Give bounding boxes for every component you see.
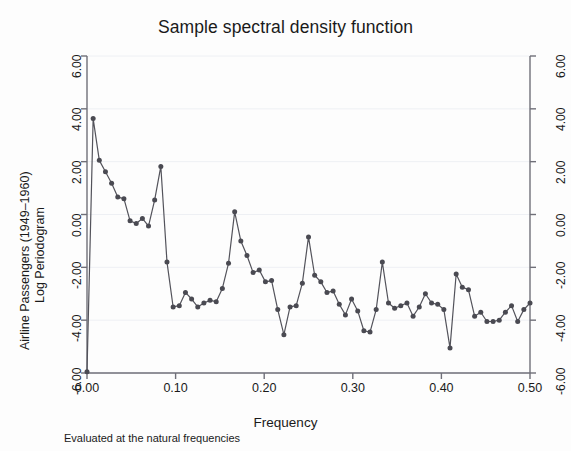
y-tick-label-left: -2.00 [70, 262, 84, 289]
data-point [257, 267, 262, 272]
y-tick-label-left: 0.00 [70, 213, 84, 236]
data-point [491, 319, 496, 324]
data-point [411, 314, 416, 319]
x-tick-label: 0.10 [151, 381, 201, 395]
data-point [121, 196, 126, 201]
data-point [398, 303, 403, 308]
y-tick-label-right: -2.00 [554, 262, 568, 289]
data-point [281, 332, 286, 337]
data-point [355, 308, 360, 313]
data-point [201, 301, 206, 306]
data-point [294, 303, 299, 308]
x-tick-label: 0.00 [62, 381, 112, 395]
data-point [97, 158, 102, 163]
data-point [503, 310, 508, 315]
data-point [263, 279, 268, 284]
data-point [386, 301, 391, 306]
data-point [497, 318, 502, 323]
y-tick-label-right: 2.00 [554, 160, 568, 183]
grid-lines [87, 56, 530, 373]
data-point [189, 297, 194, 302]
data-point [269, 278, 274, 283]
data-point [91, 116, 96, 121]
y-tick-label-right: 6.00 [554, 55, 568, 78]
data-point [251, 270, 256, 275]
data-point [331, 289, 336, 294]
data-point [183, 290, 188, 295]
data-point [275, 307, 280, 312]
chart-figure: Sample spectral density function Airline… [0, 0, 571, 451]
data-point [435, 302, 440, 307]
data-point [454, 271, 459, 276]
x-tick-label: 0.40 [416, 381, 466, 395]
y-tick-label-right: 4.00 [554, 107, 568, 130]
data-point [115, 195, 120, 200]
y-tick-label-right: 0.00 [554, 213, 568, 236]
data-point [417, 304, 422, 309]
data-point [429, 301, 434, 306]
data-point [288, 304, 293, 309]
y-tick-label-right: -4.00 [554, 315, 568, 342]
data-point [146, 224, 151, 229]
axis-ticks [81, 56, 536, 379]
data-point [158, 164, 163, 169]
data-point [85, 369, 90, 374]
data-point [238, 238, 243, 243]
data-point [460, 285, 465, 290]
data-point [312, 273, 317, 278]
x-tick-label: 0.30 [328, 381, 378, 395]
data-point [134, 221, 139, 226]
data-point [226, 261, 231, 266]
y-tick-label-left: 6.00 [70, 55, 84, 78]
x-tick-label: 0.50 [505, 381, 555, 395]
data-point [128, 218, 133, 223]
data-point [509, 303, 514, 308]
data-point [515, 319, 520, 324]
data-point [195, 304, 200, 309]
data-point [164, 260, 169, 265]
data-point [171, 304, 176, 309]
data-point [448, 345, 453, 350]
data-point [232, 209, 237, 214]
data-point [472, 314, 477, 319]
data-point [109, 181, 114, 186]
data-point [528, 301, 533, 306]
data-point [343, 312, 348, 317]
data-point [374, 307, 379, 312]
y-tick-label-left: -4.00 [70, 315, 84, 342]
data-point [484, 319, 489, 324]
data-point [423, 291, 428, 296]
data-point [368, 330, 373, 335]
data-point [300, 281, 305, 286]
data-point [318, 279, 323, 284]
data-point [103, 169, 108, 174]
data-point [306, 234, 311, 239]
data-point [441, 307, 446, 312]
data-point [177, 303, 182, 308]
data-point [349, 297, 354, 302]
data-point [521, 307, 526, 312]
data-point [208, 298, 213, 303]
data-point [220, 286, 225, 291]
y-tick-label-left: 4.00 [70, 107, 84, 130]
data-point [337, 302, 342, 307]
data-point [244, 253, 249, 258]
y-tick-label-right: -6.00 [554, 368, 568, 395]
data-point [324, 290, 329, 295]
data-point [140, 216, 145, 221]
data-point [361, 328, 366, 333]
data-point [466, 287, 471, 292]
data-point [152, 197, 157, 202]
data-point [478, 310, 483, 315]
data-point [380, 260, 385, 265]
y-tick-label-left: 2.00 [70, 160, 84, 183]
data-point [214, 299, 219, 304]
x-tick-label: 0.20 [239, 381, 289, 395]
series-markers-log-periodogram [85, 116, 533, 374]
data-point [404, 301, 409, 306]
data-point [392, 306, 397, 311]
series-line-log-periodogram [87, 119, 530, 372]
